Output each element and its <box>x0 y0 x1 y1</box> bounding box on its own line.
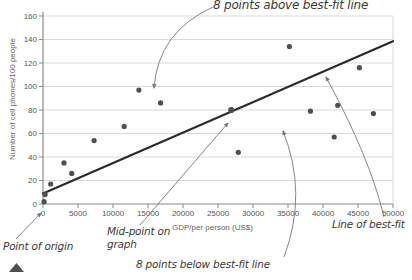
x-tick-label: 40000 <box>312 209 335 218</box>
best-fit-line <box>43 41 393 193</box>
y-tick-label: 120 <box>24 59 38 68</box>
data-point <box>287 44 292 49</box>
point-of-origin-pointer-arrow <box>16 213 41 239</box>
y-tick-label: 160 <box>24 12 38 21</box>
data-point <box>158 100 163 105</box>
data-point <box>228 107 234 113</box>
x-axis-title: GDP/per person (US$) <box>172 223 253 232</box>
x-tick-label: 25000 <box>207 209 230 218</box>
x-tick-label: 35000 <box>277 209 300 218</box>
x-tick-label: 5000 <box>69 209 87 218</box>
x-tick-label: 45000 <box>347 209 370 218</box>
y-tick-label: 0 <box>33 200 38 209</box>
data-point <box>122 124 127 129</box>
scatter-chart-figure: 0204060801001201401600500010000150002000… <box>0 0 412 280</box>
y-tick-label: 80 <box>28 106 37 115</box>
data-point <box>61 160 66 165</box>
x-tick-label: 30000 <box>242 209 265 218</box>
data-point <box>335 103 340 108</box>
data-point <box>41 199 46 204</box>
scatter-plot-canvas: 0204060801001201401600500010000150002000… <box>0 0 412 280</box>
y-tick-label: 20 <box>28 176 37 185</box>
data-point <box>236 150 241 155</box>
annotation-points-below: 8 points below best-fit line <box>136 258 270 270</box>
data-point <box>357 65 362 70</box>
y-tick-label: 100 <box>24 82 38 91</box>
x-tick-label: 20000 <box>172 209 195 218</box>
y-axis-title: Number of cell phones/100 people <box>8 14 20 184</box>
data-point <box>92 138 97 143</box>
triangle-bullet-icon <box>9 263 25 273</box>
annotation-points-above: 8 points above best-fit line <box>213 0 368 12</box>
y-tick-label: 140 <box>24 35 38 44</box>
annotation-line-of-best-fit: Line of best-fit <box>332 218 405 230</box>
data-point <box>332 134 337 139</box>
line-of-best-fit-pointer-arrow <box>326 77 384 217</box>
data-point <box>308 109 313 114</box>
points-below-pointer-arrow <box>283 131 296 257</box>
x-tick-label: 10000 <box>102 209 125 218</box>
x-tick-label: 0 <box>41 209 46 218</box>
data-point <box>43 192 48 197</box>
data-point <box>371 111 376 116</box>
data-point <box>69 171 74 176</box>
x-tick-label: 50000 <box>382 209 405 218</box>
annotation-point-of-origin: Point of origin <box>3 240 73 252</box>
x-tick-label: 15000 <box>137 209 160 218</box>
points-above-pointer-arrow <box>154 7 213 88</box>
data-point <box>48 181 53 186</box>
y-tick-label: 40 <box>28 153 37 162</box>
data-point <box>136 87 141 92</box>
y-tick-label: 60 <box>28 129 37 138</box>
annotation-mid-point: Mid-point on graph <box>107 225 171 251</box>
